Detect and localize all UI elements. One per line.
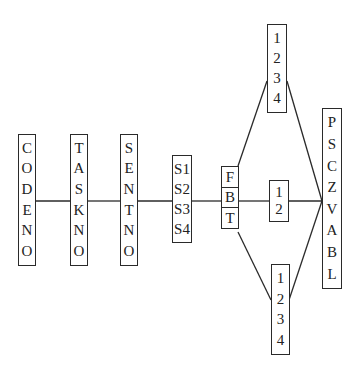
taskno-char: N [74, 223, 85, 238]
sentno-char: N [124, 182, 135, 197]
sentno-char: O [124, 244, 135, 259]
pscz-char: S [328, 137, 336, 152]
taskno-char: T [74, 141, 83, 156]
sentno-char: S [125, 141, 133, 156]
s-group-char: S2 [174, 182, 190, 197]
codeno-char: O [22, 244, 33, 259]
fbt-char: T [225, 210, 234, 227]
bottom-number: 2 [277, 292, 285, 307]
pscz-char: Z [327, 180, 336, 195]
taskno-char: O [74, 244, 85, 259]
s-group-char: S4 [174, 222, 190, 237]
fbt-char: B [225, 189, 235, 206]
taskno-char: A [74, 161, 85, 176]
pscz-char: A [327, 223, 338, 238]
bottom-number: 4 [277, 333, 285, 348]
s-group-char: S1 [174, 162, 190, 177]
fbt-stack: F B T [221, 166, 239, 229]
codeno-char: O [22, 161, 33, 176]
sentno-box: S E N T N O [120, 134, 138, 266]
codeno-box: C O D E N O [18, 134, 36, 266]
edge-bottom-pscz [289, 201, 322, 300]
top-number: 3 [273, 71, 281, 86]
pscz-char: C [327, 159, 337, 174]
sentno-char: E [124, 161, 133, 176]
top-number: 2 [273, 51, 281, 66]
fbt-cell-t: T [221, 207, 239, 229]
taskno-box: T A S K N O [70, 134, 88, 266]
taskno-char: K [74, 203, 85, 218]
taskno-char: S [75, 182, 83, 197]
edge-top-pscz [287, 81, 322, 201]
pscz-box: P S C Z V A B L [322, 108, 342, 289]
pscz-char: B [327, 245, 337, 260]
edge-fbt-bottom [238, 232, 271, 300]
top-number: 4 [273, 91, 281, 106]
middle-number: 1 [275, 185, 283, 200]
pscz-char: V [327, 202, 338, 217]
sentno-char: T [124, 203, 133, 218]
codeno-char: E [22, 203, 31, 218]
middle-number: 2 [275, 202, 283, 217]
pscz-char: P [328, 115, 336, 130]
bottom-numbers-box: 1 2 3 4 [271, 264, 290, 355]
bottom-number: 3 [277, 312, 285, 327]
bottom-number: 1 [277, 271, 285, 286]
s-group-box: S1 S2 S3 S4 [172, 155, 192, 243]
codeno-char: N [22, 223, 33, 238]
fbt-cell-f: F [221, 166, 239, 188]
codeno-char: D [22, 182, 33, 197]
codeno-char: C [22, 141, 32, 156]
sentno-char: N [124, 223, 135, 238]
fbt-char: F [226, 169, 234, 186]
pscz-char: L [327, 267, 336, 282]
s-group-char: S3 [174, 202, 190, 217]
top-number: 1 [273, 31, 281, 46]
fbt-cell-b: B [221, 187, 239, 209]
top-numbers-box: 1 2 3 4 [267, 24, 287, 113]
middle-numbers-box: 1 2 [269, 180, 289, 222]
edge-fbt-top [238, 81, 267, 166]
